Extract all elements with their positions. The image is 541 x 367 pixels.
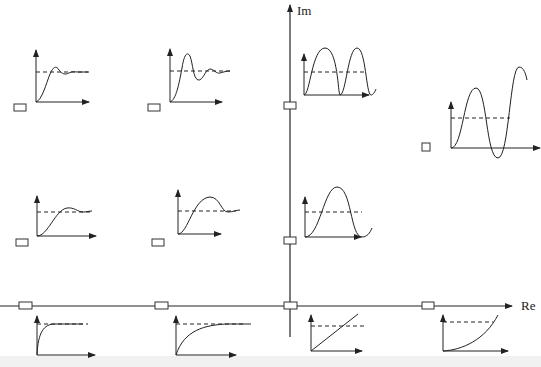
pole-top-second <box>148 104 160 111</box>
resp-mid-second <box>178 190 240 234</box>
pole-right-half <box>422 143 430 151</box>
resp-mid-imag <box>305 187 372 237</box>
resp-top-second <box>170 49 232 102</box>
resp-real-left-far <box>37 316 95 355</box>
resp-real-right <box>443 315 508 351</box>
pole-real-left-far <box>19 302 32 309</box>
pole-mid-second <box>152 239 164 246</box>
resp-top-left <box>36 50 89 102</box>
pole-mid-imag-axis <box>284 237 296 244</box>
pole-real-right <box>422 302 434 309</box>
pole-top-left <box>14 104 26 111</box>
imaginary-axis-label: Im <box>297 3 311 19</box>
real-axis-label: Re <box>521 298 535 314</box>
pole-origin <box>284 302 297 309</box>
complex-plane-axes <box>0 5 512 337</box>
resp-real-left-near <box>176 316 251 355</box>
pole-markers <box>14 102 434 309</box>
pole-top-imag-axis <box>284 102 296 109</box>
pole-real-left-near <box>155 302 168 309</box>
resp-mid-left <box>37 196 96 236</box>
resp-top-imag <box>304 48 376 95</box>
resp-right-half <box>451 67 540 158</box>
pole-mid-left <box>16 239 28 246</box>
pole-location-response-diagram <box>0 0 541 367</box>
resp-origin <box>311 314 366 351</box>
